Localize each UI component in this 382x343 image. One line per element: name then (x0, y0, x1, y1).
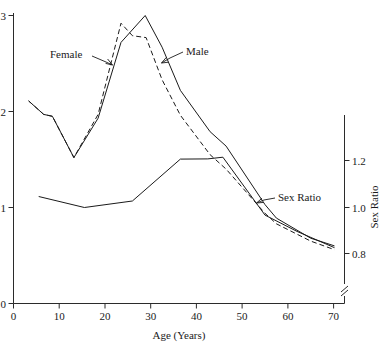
x-ticklabel-60: 60 (282, 310, 294, 322)
series-label-sex-ratio: Sex Ratio (278, 191, 322, 203)
y-ticklabel-1: 1 (1, 202, 7, 214)
y-ticklabel-0: 0 (1, 298, 7, 310)
y-axis-left: 3 2 1 0 (1, 10, 14, 310)
x-ticklabel-20: 20 (100, 310, 112, 322)
annotation-male: Male (162, 45, 209, 63)
annotation-sex-ratio: Sex Ratio (257, 191, 322, 203)
x-ticklabel-0: 0 (11, 310, 17, 322)
y-ticklabel-2: 2 (1, 106, 7, 118)
x-ticklabel-70: 70 (328, 310, 340, 322)
x-ticklabel-30: 30 (145, 310, 157, 322)
y-axis-right: 1.2 1.0 0.8 Sex Ratio (341, 115, 380, 304)
y-ticklabel-3: 3 (1, 10, 7, 22)
leader-line-female (92, 56, 113, 65)
y2-ticklabel-1p2: 1.2 (352, 155, 366, 167)
axis-break-icon (341, 286, 348, 296)
chart-figure: 3 2 1 0 0 10 20 30 40 50 60 70 Age (Year… (0, 0, 382, 343)
x-ticklabel-50: 50 (237, 310, 249, 322)
y2-ticklabel-0p8: 0.8 (352, 248, 366, 260)
x-ticklabel-10: 10 (54, 310, 66, 322)
x-axis-title: Age (Years) (153, 329, 206, 342)
x-ticklabel-40: 40 (191, 310, 203, 322)
annotation-female: Female (50, 48, 113, 65)
chart-canvas: 3 2 1 0 0 10 20 30 40 50 60 70 Age (Year… (0, 0, 382, 343)
x-axis: 0 10 20 30 40 50 60 70 Age (Years) (11, 304, 345, 343)
y2-ticklabel-1p0: 1.0 (352, 202, 366, 214)
series-label-male: Male (186, 45, 209, 57)
series-label-female: Female (50, 48, 82, 60)
y2-axis-title: Sex Ratio (368, 185, 380, 229)
